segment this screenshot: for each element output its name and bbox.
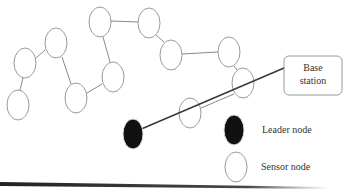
sensor-node-n5 — [138, 8, 160, 38]
sensor-node-n3 — [45, 28, 67, 58]
leader-to-base-route — [139, 68, 284, 130]
legend-sensor-icon — [225, 152, 247, 182]
base-station-line1: Base — [287, 61, 339, 74]
sensor-node-n9 — [102, 62, 124, 92]
edge-n10-n9 — [87, 84, 102, 93]
base-station-label: Base station — [287, 61, 339, 87]
bottom-rule — [0, 182, 330, 189]
sensor-node-n4 — [89, 7, 111, 37]
edge-n4-n5 — [111, 21, 138, 22]
leader-node — [123, 119, 143, 149]
sensor-node-n7 — [218, 37, 240, 67]
sensor-node-n2 — [14, 48, 36, 78]
sensor-node-n6 — [160, 40, 182, 70]
sensor-node-n1 — [7, 90, 29, 120]
edge-n9-n4 — [103, 37, 110, 62]
legend-leader-icon — [224, 115, 244, 145]
base-station-line2: station — [287, 74, 339, 87]
legend-leader-label: Leader node — [262, 124, 312, 136]
sensor-nodes — [7, 7, 254, 128]
sensor-node-n10 — [65, 83, 87, 113]
edge-n6-n7 — [182, 52, 218, 54]
edge-n5-n6 — [156, 35, 164, 42]
edge-n1-n2 — [20, 78, 23, 90]
sensor-node-n11 — [179, 98, 201, 128]
edge-n7-n8 — [234, 66, 237, 70]
edge-n2-n3 — [36, 50, 45, 58]
legend-sensor-label: Sensor node — [261, 161, 310, 173]
edge-n3-n10 — [62, 57, 71, 84]
